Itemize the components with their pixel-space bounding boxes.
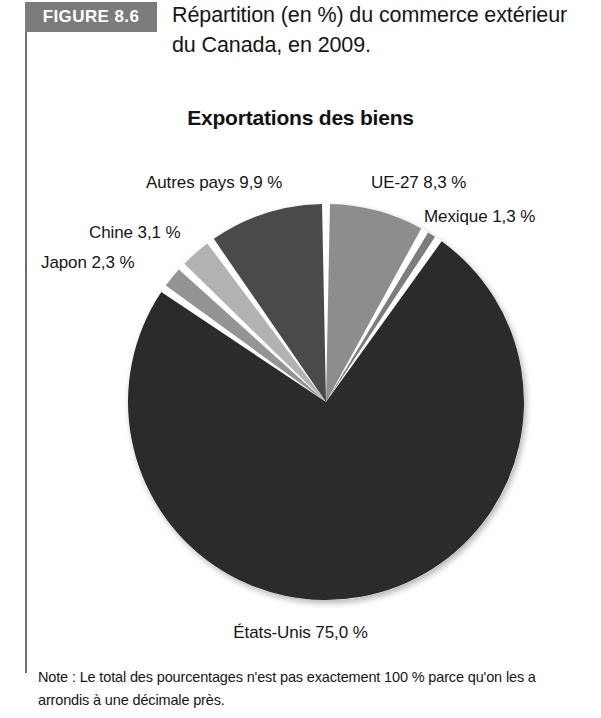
pie-slice-mexique [326,232,435,402]
pie-label-ue-27: UE-27 8,3 % [371,173,466,193]
figure-number-badge: FIGURE 8.6 [25,2,157,32]
pie-label-japon: Japon 2,3 % [41,253,134,273]
pie-slice-tats-unis [128,241,524,600]
pie-shadow [128,204,524,600]
pie-slice-chine [184,244,326,402]
pie-label-chine: Chine 3,1 % [89,223,181,243]
figure-caption: Répartition (en %) du commerce extérieur… [172,0,592,60]
pie-label-autres-pays: Autres pays 9,9 % [146,173,282,193]
pie-slice-ue-27 [326,204,421,402]
figure-note: Note : Le total des pourcentages n'est p… [38,666,583,712]
pie-slice-autres-pays [214,204,326,402]
pie-slices-group [128,204,524,600]
pie-label-etats-unis: États-Unis 75,0 % [0,623,601,643]
chart-title: Exportations des biens [0,106,601,130]
pie-slice-japon [166,270,326,403]
pie-label-mexique: Mexique 1,3 % [424,207,535,227]
